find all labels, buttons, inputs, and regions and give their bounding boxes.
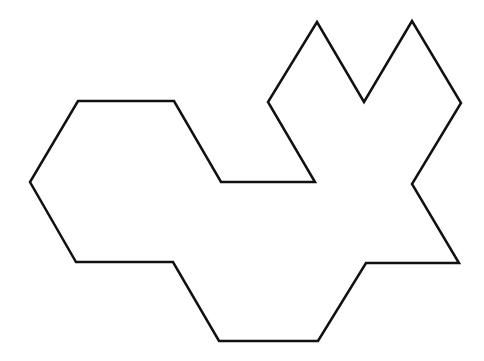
diagram-canvas [0,0,484,361]
outline-polygon [30,21,461,341]
